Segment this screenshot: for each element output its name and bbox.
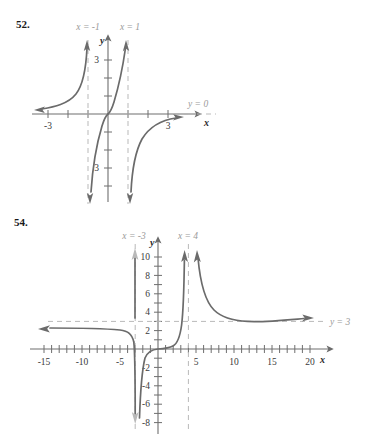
x-tick-label-neg10-54: -10 xyxy=(76,357,89,367)
graph-52: -3 3 3 3 x y x = -1 x = 1 y = 0 xyxy=(20,14,270,209)
y-tick-label-neg6-54: -6 xyxy=(142,399,150,409)
x-tick-label-20-54: 20 xyxy=(305,357,315,367)
curve-right-branch-54 xyxy=(198,258,304,322)
arrow-right-branch-52 xyxy=(173,114,184,120)
graph-54: -15 -10 -5 5 10 15 20 10 8 6 4 2 -2 -4 -… xyxy=(8,222,365,440)
x-tick-label-neg3-52: -3 xyxy=(44,121,52,131)
arrow-right-top-54 xyxy=(194,250,201,262)
x-tick-label-neg15-54: -15 xyxy=(38,357,51,367)
arrow-far-left-54 xyxy=(38,325,50,332)
y-tick-label-10-54: 10 xyxy=(141,252,151,262)
x-tick-label-10-54: 10 xyxy=(229,357,239,367)
axis-group-54 xyxy=(30,240,330,434)
x-tick-label-neg5-54: -5 xyxy=(116,357,124,367)
worksheet-page: 52. 54. xyxy=(0,0,365,445)
arrow-far-left-52 xyxy=(34,107,45,113)
y-tick-label-6-54: 6 xyxy=(145,289,150,299)
asymptote-label-y-0-52: y = 0 xyxy=(187,99,208,109)
y-tick-label-neg3-52: 3 xyxy=(94,163,99,173)
asymptote-label-x-neg1-52: x = -1 xyxy=(75,22,99,32)
y-tick-label-neg4-54: -4 xyxy=(142,381,150,391)
asymptote-label-x-1-52: x = 1 xyxy=(119,22,140,32)
curve-left-branch-down-54 xyxy=(134,342,135,414)
y-tick-label-8-54: 8 xyxy=(145,271,150,281)
x-tick-label-3-52: 3 xyxy=(166,121,171,131)
y-tick-label-neg8-54: -8 xyxy=(142,418,150,428)
curve-left-branch-52 xyxy=(42,48,87,109)
curve-group-52 xyxy=(34,40,184,204)
x-axis-label-52: x xyxy=(203,117,209,128)
curve-left-branch-54 xyxy=(50,328,134,342)
curve-group-54 xyxy=(38,248,314,424)
x-tick-label-15-54: 15 xyxy=(267,357,277,367)
asymptote-label-y-3-54: y = 3 xyxy=(329,317,350,327)
x-axis-label-54: x xyxy=(319,354,325,365)
axis-group-52 xyxy=(32,38,198,202)
curve-middle-branch-54 xyxy=(140,260,185,418)
y-tick-label-2-54: 2 xyxy=(145,326,150,336)
y-axis-label-54: y xyxy=(149,237,155,248)
x-tick-label-5-54: 5 xyxy=(194,357,199,367)
asymptote-label-x-4-54: x = 4 xyxy=(177,231,198,241)
asymptotes-54 xyxy=(48,244,326,430)
asymptotes-52 xyxy=(88,40,216,204)
y-tick-label-4-54: 4 xyxy=(145,307,150,317)
y-axis-label-52: y xyxy=(99,35,105,46)
y-tick-label-3-52: 3 xyxy=(94,55,99,65)
asymptote-label-x-neg3-54: x = -3 xyxy=(121,231,146,241)
